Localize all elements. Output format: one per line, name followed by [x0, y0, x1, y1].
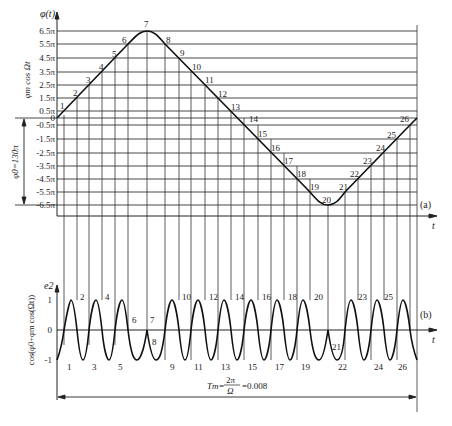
phase-modulation-diagram: 6.5π 5.5π 4.5π 3.5π 2.5π 1.5π 0.5π 0 -0.… [0, 0, 452, 426]
svg-text:4: 4 [99, 62, 104, 72]
svg-text:26: 26 [398, 362, 408, 372]
svg-text:3.5π: 3.5π [39, 67, 55, 77]
period-formula: Tm= 2π Ω =0.008 [207, 375, 268, 396]
svg-text:25: 25 [384, 292, 394, 302]
svg-text:6: 6 [122, 35, 127, 45]
svg-text:17: 17 [275, 362, 285, 372]
svg-text:11: 11 [194, 362, 203, 372]
svg-text:20: 20 [322, 195, 332, 205]
svg-text:0: 0 [48, 325, 53, 335]
amplitude-label: φm cos Ωt [22, 61, 32, 98]
svg-text:7: 7 [144, 19, 149, 29]
svg-text:11: 11 [205, 75, 214, 85]
svg-text:18: 18 [288, 292, 298, 302]
svg-text:26: 26 [400, 114, 410, 124]
svg-text:4: 4 [105, 292, 110, 302]
svg-text:1: 1 [60, 101, 65, 111]
svg-text:15: 15 [248, 362, 258, 372]
svg-text:15: 15 [258, 129, 268, 139]
svg-text:21: 21 [332, 342, 341, 352]
svg-text:24: 24 [374, 362, 384, 372]
cosine-function-label: cos(φ0+φm cos(Ωt)) [26, 295, 36, 365]
svg-text:23: 23 [363, 156, 373, 166]
svg-text:10: 10 [182, 292, 192, 302]
svg-text:-6.5π: -6.5π [36, 200, 55, 210]
period-dimension [58, 395, 416, 399]
svg-text:Tm=: Tm= [207, 381, 225, 391]
panel-b-y-ticks: 1 0 -1 [45, 295, 53, 365]
panel-b-x-axis-label: t [432, 334, 435, 345]
svg-text:12: 12 [218, 89, 227, 99]
svg-text:23: 23 [358, 292, 368, 302]
svg-text:-4.5π: -4.5π [36, 174, 55, 184]
svg-text:16: 16 [271, 143, 281, 153]
svg-text:5: 5 [118, 362, 123, 372]
svg-text:19: 19 [301, 362, 311, 372]
svg-text:25: 25 [387, 130, 397, 140]
svg-text:22: 22 [338, 362, 347, 372]
svg-text:20: 20 [314, 292, 324, 302]
svg-text:17: 17 [284, 156, 294, 166]
svg-text:13: 13 [231, 102, 241, 112]
svg-text:9: 9 [170, 362, 175, 372]
svg-text:8: 8 [166, 35, 171, 45]
svg-text:24: 24 [376, 143, 386, 153]
panel-a-tag: (a) [420, 199, 431, 211]
phi0-label: φ0=130π [10, 145, 20, 179]
svg-text:3: 3 [92, 362, 97, 372]
panel-a-point-labels: 1 2 3 4 5 6 7 8 9 10 11 12 13 14 15 16 1… [60, 19, 410, 205]
panel-b-y-axis-label: e2 [44, 280, 53, 291]
svg-text:10: 10 [192, 62, 202, 72]
svg-text:9: 9 [180, 48, 185, 58]
svg-text:2.5π: 2.5π [39, 80, 55, 90]
svg-text:1: 1 [48, 295, 53, 305]
svg-text:=0.008: =0.008 [242, 381, 268, 391]
svg-text:1.5π: 1.5π [39, 93, 55, 103]
phi0-dimension [22, 119, 26, 204]
svg-text:8: 8 [152, 337, 157, 347]
panel-a-x-axis-label: t [432, 220, 435, 231]
svg-text:12: 12 [209, 292, 218, 302]
svg-text:-0.5π: -0.5π [36, 120, 55, 130]
svg-text:21: 21 [339, 182, 348, 192]
svg-text:4.5π: 4.5π [39, 53, 55, 63]
svg-text:19: 19 [310, 182, 320, 192]
svg-text:6.5π: 6.5π [39, 26, 55, 36]
svg-text:16: 16 [262, 292, 272, 302]
svg-text:-1.5π: -1.5π [36, 134, 55, 144]
svg-text:-1: -1 [45, 355, 53, 365]
svg-text:5.5π: 5.5π [39, 39, 55, 49]
svg-text:14: 14 [249, 114, 259, 124]
svg-text:-2.5π: -2.5π [36, 148, 55, 158]
svg-text:2π: 2π [226, 375, 236, 385]
panel-b-tag: (b) [420, 309, 432, 321]
svg-text:-3.5π: -3.5π [36, 161, 55, 171]
svg-text:1: 1 [67, 362, 72, 372]
svg-text:18: 18 [297, 169, 307, 179]
svg-text:14: 14 [235, 292, 245, 302]
panel-a-y-axis-label: φ(t) [40, 8, 56, 20]
svg-text:2: 2 [80, 292, 85, 302]
svg-text:3: 3 [86, 75, 91, 85]
svg-text:2: 2 [73, 88, 78, 98]
svg-text:22: 22 [350, 169, 359, 179]
svg-text:-5.5π: -5.5π [36, 187, 55, 197]
panel-a-axes [55, 12, 437, 218]
svg-text:6: 6 [132, 315, 137, 325]
svg-text:5: 5 [112, 49, 117, 59]
svg-text:Ω: Ω [227, 386, 234, 396]
svg-text:7: 7 [150, 315, 155, 325]
svg-text:13: 13 [221, 362, 231, 372]
